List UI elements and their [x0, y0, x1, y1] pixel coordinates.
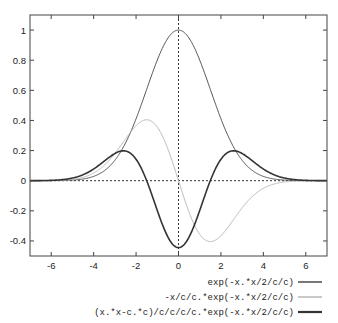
y-tick-label: 0.4	[13, 115, 26, 126]
x-tick-label: -4	[89, 260, 97, 271]
y-tick-label: 0.6	[13, 85, 26, 96]
x-tick-labels: -6-4-20246	[47, 260, 308, 271]
x-tick-label: 2	[218, 260, 223, 271]
legend: exp(-x.*x/2/c/c)-x/c/c.*exp(-x.*x/2/c/c)…	[94, 278, 322, 318]
legend-label: exp(-x.*x/2/c/c)	[208, 278, 294, 288]
x-tick-label: 6	[303, 260, 308, 271]
legend-label: (x.*x-c.*c)/c/c/c/c.*exp(-x.*x/2/c/c)	[94, 308, 294, 318]
chart: -6-4-20246 10.80.60.40.20-0.2-0.4 exp(-x…	[0, 0, 338, 323]
x-tick-label: 0	[176, 260, 181, 271]
zero-axes	[30, 15, 327, 256]
y-tick-labels: 10.80.60.40.20-0.2-0.4	[10, 25, 26, 247]
y-tick-label: -0.2	[10, 205, 26, 216]
y-tick-label: 1	[21, 25, 26, 36]
y-tick-label: 0.2	[13, 145, 26, 156]
y-tick-label: -0.4	[10, 235, 26, 246]
x-tick-label: 4	[261, 260, 266, 271]
x-tick-label: -2	[132, 260, 140, 271]
y-tick-label: 0	[21, 175, 26, 186]
series-group	[30, 30, 327, 248]
legend-label: -x/c/c.*exp(-x.*x/2/c/c)	[164, 293, 294, 303]
y-tick-label: 0.8	[13, 55, 26, 66]
x-tick-label: -6	[47, 260, 55, 271]
